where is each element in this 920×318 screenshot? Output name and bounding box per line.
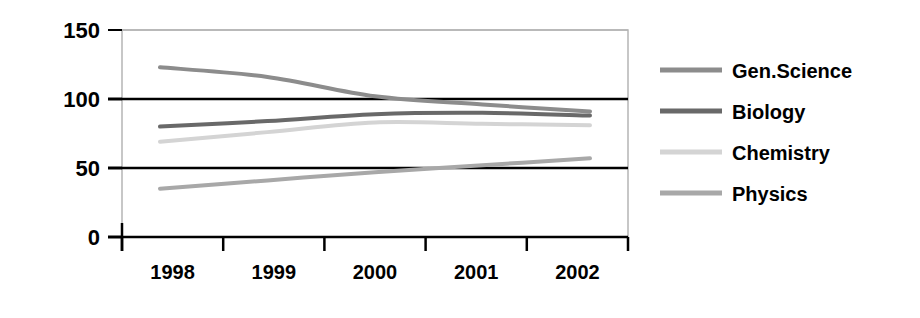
legend-label: Chemistry (732, 142, 831, 164)
legend-label: Biology (732, 101, 806, 123)
y-axis-label-50: 50 (76, 156, 100, 181)
x-axis-tick-marks (122, 237, 628, 251)
line-chart: 150100500 19981999200020012002 Gen.Scien… (0, 0, 920, 318)
x-axis-label-2002: 2002 (555, 261, 600, 283)
y-axis-tick-marks (108, 30, 122, 251)
x-axis-label-1999: 1999 (252, 261, 297, 283)
y-axis-label-100: 100 (63, 87, 100, 112)
legend-item-biology[interactable]: Biology (660, 101, 806, 123)
y-axis-label-150: 150 (63, 18, 100, 43)
legend-label: Gen.Science (732, 60, 852, 82)
legend-item-gen-science[interactable]: Gen.Science (660, 60, 852, 82)
chart-canvas: 150100500 19981999200020012002 Gen.Scien… (0, 0, 920, 318)
x-axis-tick-labels: 19981999200020012002 (150, 261, 599, 283)
plot-frame (122, 30, 628, 237)
legend-label: Physics (732, 183, 808, 205)
x-axis-label-2001: 2001 (454, 261, 499, 283)
legend-item-physics[interactable]: Physics (660, 183, 808, 205)
plot-background (122, 30, 628, 237)
chart-legend: Gen.ScienceBiologyChemistryPhysics (660, 60, 852, 205)
y-axis-tick-labels: 150100500 (63, 18, 100, 250)
x-axis-label-2000: 2000 (353, 261, 398, 283)
x-axis-label-1998: 1998 (150, 261, 195, 283)
legend-item-chemistry[interactable]: Chemistry (660, 142, 831, 164)
y-axis-label-0: 0 (88, 225, 100, 250)
